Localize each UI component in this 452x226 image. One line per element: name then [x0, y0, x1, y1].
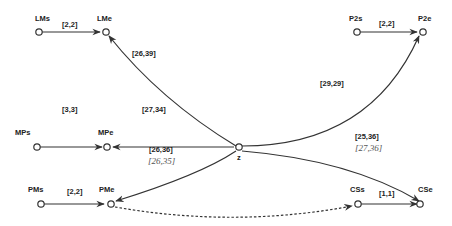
edge-label-z-MPe: [27,34]: [142, 105, 166, 114]
edge-label-z-P2e: [29,29]: [320, 79, 344, 88]
node-label-P2s: P2s: [349, 14, 362, 23]
node-MPs[interactable]: [34, 144, 40, 150]
edge-label-CSs-CSe: [1,1]: [379, 189, 395, 198]
temporal-network-diagram: LMs LMe P2s P2e MPs MPe z PMs PMe CSs CS…: [0, 0, 452, 226]
node-label-PMe: PMe: [99, 185, 114, 194]
edge-z-LMe: [109, 36, 236, 146]
node-label-CSe: CSe: [418, 185, 433, 194]
node-label-z: z: [237, 153, 241, 162]
edge-label-z-LMe: [26,39]: [132, 49, 156, 58]
node-label-MPe: MPe: [98, 128, 113, 137]
edge-PMe-CSs-dashed: [115, 206, 352, 217]
node-label-P2e: P2e: [418, 14, 431, 23]
edge-label-z-PMe: [26,36]: [149, 145, 173, 154]
node-P2e[interactable]: [420, 29, 426, 35]
edge-z-P2e: [242, 36, 419, 146]
edge-alt-label-z-PMe: [26,35]: [148, 156, 176, 166]
edge-label-z-CSe: [25,36]: [355, 132, 379, 141]
node-LMe[interactable]: [103, 29, 109, 35]
node-CSs[interactable]: [355, 201, 361, 207]
node-label-PMs: PMs: [28, 185, 43, 194]
edge-z-PMe: [116, 151, 236, 201]
node-PMe[interactable]: [108, 201, 114, 207]
node-P2s[interactable]: [354, 29, 360, 35]
node-PMs[interactable]: [38, 201, 44, 207]
edge-label-LMs-LMe: [2,2]: [62, 20, 78, 29]
node-label-MPs: MPs: [15, 128, 30, 137]
node-label-LMs: LMs: [35, 14, 50, 23]
node-label-LMe: LMe: [97, 14, 112, 23]
node-CSe[interactable]: [417, 201, 423, 207]
node-z[interactable]: [236, 144, 242, 150]
node-label-CSs: CSs: [350, 185, 365, 194]
edge-label-P2s-P2e: [2,2]: [379, 19, 395, 28]
edge-label-PMs-PMe: [2,2]: [67, 187, 83, 196]
edge-alt-label-z-CSe: [27,36]: [355, 143, 383, 153]
node-LMs[interactable]: [36, 29, 42, 35]
node-MPe[interactable]: [104, 144, 110, 150]
edge-label-MPs-MPe: [3,3]: [62, 105, 78, 114]
